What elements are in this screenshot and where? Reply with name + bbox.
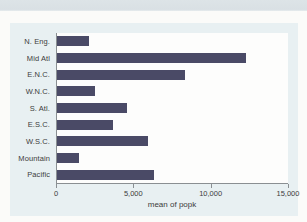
category-axis-labels: N. Eng.Mid AtlE.N.C.W.N.C.S. Atl.E.S.C.W… xyxy=(10,33,53,183)
x-axis-tick-labels: 05,00010,00015,000 xyxy=(56,189,288,198)
bar-row xyxy=(57,150,288,167)
category-label: N. Eng. xyxy=(10,33,53,50)
bar xyxy=(57,136,148,146)
x-tick xyxy=(133,184,134,188)
category-label: S. Atl. xyxy=(10,100,53,117)
category-label: Pacific xyxy=(10,166,53,183)
bar-row xyxy=(57,33,288,50)
bar-chart: N. Eng.Mid AtlE.N.C.W.N.C.S. Atl.E.S.C.W… xyxy=(10,23,298,216)
page-top-band xyxy=(0,0,307,11)
bar xyxy=(57,53,246,63)
x-tick-label: 0 xyxy=(54,189,58,198)
bar-rows xyxy=(57,33,288,183)
x-tick xyxy=(288,184,289,188)
bar xyxy=(57,153,79,163)
bar xyxy=(57,103,127,113)
bar-row xyxy=(57,50,288,67)
category-label: W.S.C. xyxy=(10,133,53,150)
bar-row xyxy=(57,166,288,183)
category-label: Mountain xyxy=(10,150,53,167)
bar-row xyxy=(57,83,288,100)
bar xyxy=(57,170,154,180)
bar xyxy=(57,70,185,80)
x-tick-label: 15,000 xyxy=(277,189,300,198)
category-label: Mid Atl xyxy=(10,50,53,67)
bar-row xyxy=(57,133,288,150)
category-label: W.N.C. xyxy=(10,83,53,100)
x-axis-title: mean of popk xyxy=(56,200,288,209)
bar-row xyxy=(57,100,288,117)
bar xyxy=(57,36,89,46)
category-label: E.N.C. xyxy=(10,66,53,83)
plot-area xyxy=(56,33,288,184)
bar xyxy=(57,120,113,130)
x-axis-ticks xyxy=(56,184,288,188)
bar-row xyxy=(57,116,288,133)
x-tick-label: 5,000 xyxy=(124,189,143,198)
category-label: E.S.C. xyxy=(10,116,53,133)
x-tick xyxy=(56,184,57,188)
x-tick-label: 10,000 xyxy=(199,189,222,198)
x-tick xyxy=(211,184,212,188)
bar xyxy=(57,86,95,96)
bar-row xyxy=(57,66,288,83)
